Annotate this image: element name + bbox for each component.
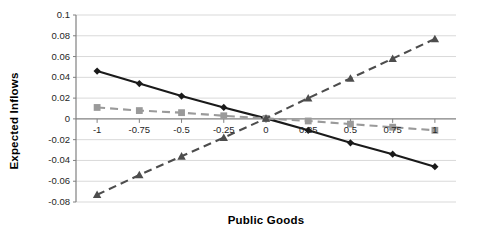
data-point-diamond [431, 163, 438, 170]
data-point-square [178, 109, 185, 116]
series-series-3-triangle-dashed [93, 35, 439, 198]
y-tick-label: 0.04 [36, 72, 70, 82]
data-point-square [94, 104, 101, 111]
y-tick-label: 0.08 [36, 31, 70, 41]
data-series [93, 35, 439, 198]
y-tick-label: 0.06 [36, 52, 70, 62]
plot-area [0, 0, 481, 242]
data-point-diamond [389, 151, 396, 158]
y-tick-label: -0.08 [36, 197, 70, 207]
x-tick-label: 1 [415, 125, 455, 135]
data-point-triangle [135, 171, 143, 179]
y-tick-label: 0 [36, 114, 70, 124]
x-tick-label: 0.75 [373, 125, 413, 135]
data-point-square [220, 112, 227, 119]
x-tick-label: 0.5 [330, 125, 370, 135]
y-axis-title: Expected Inflows [4, 0, 24, 242]
x-axis-title: Public Goods [76, 212, 456, 228]
axis-ticks [73, 15, 435, 202]
y-tick-label: -0.04 [36, 155, 70, 165]
chart-container: Expected Inflows Public Goods 0.10.080.0… [0, 0, 481, 242]
x-tick-label: 0.25 [288, 125, 328, 135]
data-point-diamond [94, 68, 101, 75]
y-tick-label: 0.02 [36, 93, 70, 103]
data-point-diamond [136, 80, 143, 87]
data-point-triangle [346, 74, 354, 82]
x-tick-label: -0.5 [162, 125, 202, 135]
gridlines [76, 15, 456, 202]
x-tick-label: -1 [77, 125, 117, 135]
x-tick-label: -0.75 [119, 125, 159, 135]
data-point-square [136, 107, 143, 114]
x-tick-label: -0.25 [204, 125, 244, 135]
x-tick-label: 0 [246, 125, 286, 135]
data-point-diamond [347, 139, 354, 146]
y-tick-label: 0.1 [36, 10, 70, 20]
y-tick-label: -0.02 [36, 135, 70, 145]
y-tick-label: -0.06 [36, 176, 70, 186]
data-point-diamond [220, 104, 227, 111]
